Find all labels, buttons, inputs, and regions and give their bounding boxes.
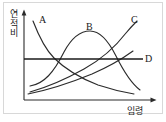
curve-label-c: C [131,15,138,25]
curve-label-b: B [86,22,93,32]
curve-b-path [30,31,140,90]
y-axis-arrow-icon [22,10,27,16]
y-axis-label: 연적비 [7,10,20,39]
x-axis-label: 임령 [127,106,143,116]
x-axis-arrow-icon [151,98,157,103]
curve-label-d: D [145,54,152,64]
curve-label-a: A [39,15,46,25]
growth-curve-figure: A B C D 연적비 임령 [0,0,166,122]
plot-canvas [0,0,166,122]
